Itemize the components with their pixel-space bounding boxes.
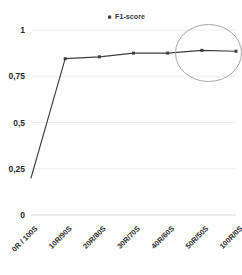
chart-canvas: F1-score 00,250,50,751 0R / 100S10R/90S2… <box>0 0 242 275</box>
data-point-6 <box>235 50 238 53</box>
legend-label-f1-score: F1-score <box>115 12 145 21</box>
f1-score-line-chart: F1-score 00,250,50,751 0R / 100S10R/90S2… <box>0 0 242 275</box>
data-point-2 <box>98 55 101 58</box>
legend-marker-f1-score <box>108 16 111 19</box>
y-tick-label-1: 0,25 <box>8 164 25 174</box>
data-point-3 <box>132 52 135 55</box>
data-point-4 <box>166 52 169 55</box>
data-point-1 <box>64 57 67 60</box>
data-point-5 <box>200 49 203 52</box>
y-tick-label-3: 0,75 <box>8 71 25 81</box>
y-tick-label-2: 0,5 <box>13 118 25 128</box>
y-tick-label-0: 0 <box>20 210 25 220</box>
y-tick-label-4: 1 <box>20 25 25 35</box>
